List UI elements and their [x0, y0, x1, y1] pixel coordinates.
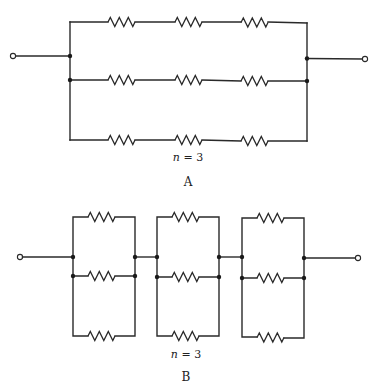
junction-dot	[155, 275, 159, 279]
resistor-icon	[108, 136, 135, 145]
junction-dot	[240, 255, 244, 259]
resistor-icon	[241, 18, 268, 27]
diagram-a: n = 3 A	[10, 18, 367, 190]
resistor-icon	[257, 333, 284, 342]
resistor-icon	[241, 77, 268, 86]
resistor-icon	[88, 213, 115, 222]
parallel-block-b-1	[71, 213, 137, 341]
resistor-icon	[175, 136, 202, 145]
branch-a-3	[70, 136, 307, 146]
junction-dot	[155, 255, 159, 259]
junction-dot	[305, 79, 309, 83]
resistor-icon	[88, 332, 115, 341]
resistor-icon	[172, 273, 199, 282]
junction-dot	[302, 256, 306, 260]
resistor-icon	[175, 76, 202, 85]
junction-dot	[217, 275, 221, 279]
resistor-icon	[108, 18, 135, 27]
resistor-icon	[257, 214, 284, 223]
caption-b: B	[182, 370, 191, 384]
parallel-block-b-2	[155, 213, 221, 341]
input-terminal-a	[10, 53, 15, 58]
parallel-block-b-3	[240, 214, 306, 343]
output-terminal-b	[355, 255, 360, 260]
resistor-icon	[172, 332, 199, 341]
caption-a: A	[183, 175, 193, 189]
resistor-icon	[88, 272, 115, 281]
junction-dot	[305, 56, 309, 60]
diagram-b: n = 3 B	[17, 213, 360, 385]
resistor-icon	[257, 274, 284, 283]
junction-dot	[240, 276, 244, 280]
resistor-icon	[241, 137, 268, 146]
output-terminal-a	[362, 56, 367, 61]
junction-dot	[302, 276, 306, 280]
branch-a-1	[70, 18, 307, 28]
resistor-icon	[175, 18, 202, 27]
resistor-icon	[172, 213, 199, 222]
junction-dot	[133, 255, 137, 259]
circuit-figure: n = 3 A	[0, 0, 375, 391]
output-lead-a	[307, 59, 363, 60]
junction-dot	[133, 274, 137, 278]
branch-a-2	[70, 76, 307, 86]
junction-dot	[71, 255, 75, 259]
junction-dot	[68, 78, 72, 82]
resistor-icon	[108, 76, 135, 85]
n-label-b: n = 3	[171, 348, 201, 361]
junction-dot	[217, 255, 221, 259]
junction-dot	[68, 54, 72, 58]
n-label-a: n = 3	[173, 151, 203, 164]
junction-dot	[71, 274, 75, 278]
